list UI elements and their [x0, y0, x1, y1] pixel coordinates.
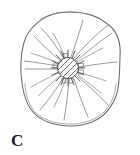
long-radial-line: [74, 79, 88, 117]
medium-radial-lines-group: [31, 33, 106, 107]
basal-inner-rim-path: [25, 84, 116, 124]
panel-label-c: C: [11, 131, 23, 151]
core-spike: [71, 78, 74, 85]
medium-radial-line: [78, 75, 101, 93]
figure-panel: C: [0, 0, 140, 155]
medium-radial-line: [38, 75, 61, 96]
core-spikes-group: [51, 50, 85, 86]
medium-radial-line: [78, 72, 106, 81]
nucleus-outline: [58, 58, 79, 79]
long-radial-line: [71, 20, 83, 57]
long-radial-line: [79, 62, 117, 67]
long-radial-line: [73, 25, 108, 59]
medium-radial-line: [31, 53, 59, 63]
